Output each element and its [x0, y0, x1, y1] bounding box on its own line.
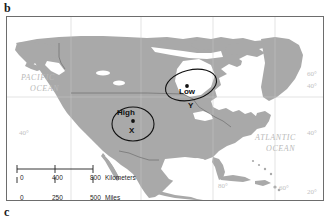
- low-pressure-label: Low: [179, 88, 195, 96]
- graticule-label-lat-40-right-upper: 40°: [307, 83, 317, 90]
- antilles-island-dot: [270, 173, 272, 175]
- high-pressure-label: High: [117, 109, 135, 117]
- graticule-label-lat-40-left: 40°: [19, 130, 29, 137]
- graticule-label-lat-40-right-lower: 40°: [307, 130, 317, 137]
- scale-mi-tick-0: 0: [20, 195, 24, 201]
- scale-mi-tick-250: 250: [52, 195, 63, 201]
- atlantic-ocean-label-line2: OCEAN: [255, 144, 296, 155]
- north-america-map-graphic: [7, 17, 323, 200]
- high-pressure-center-dot: [131, 119, 135, 123]
- antilles-island-dot: [258, 164, 260, 166]
- scale-km-tick-400: 400: [52, 175, 63, 182]
- scale-km-unit: Kilometers: [105, 175, 136, 182]
- panel-letter-b: b: [4, 2, 11, 14]
- high-pressure-point-letter: X: [129, 127, 134, 135]
- scale-km-tick-0: 0: [20, 175, 24, 182]
- map-scale-bar: 0 400 800 Kilometers 0 250 500 Miles: [21, 175, 141, 201]
- antilles-island-dot: [252, 160, 254, 162]
- atlantic-ocean-label: ATLANTIC OCEAN: [255, 133, 296, 155]
- pacific-ocean-label-line2: OCEAN: [21, 84, 59, 95]
- atlantic-ocean-label-line1: ATLANTIC: [255, 133, 296, 142]
- low-pressure-point-letter: Y: [188, 102, 193, 110]
- graticule-label-lon-60-bottom: 60°: [279, 185, 289, 192]
- graticule-label-lat-20-right: 20°: [307, 189, 317, 196]
- antilles-island-dot: [264, 168, 266, 170]
- scale-mi-tick-500: 500: [90, 195, 101, 201]
- pacific-ocean-label-line1: PACIFIC: [21, 73, 55, 82]
- graticule-label-lat-60-right-upper: 60°: [307, 71, 317, 78]
- scale-mi-unit: Miles: [105, 195, 120, 201]
- pacific-ocean-label: PACIFIC OCEAN: [21, 73, 59, 95]
- great-slave-lake-water: [113, 81, 125, 86]
- great-bear-lake-water: [96, 70, 110, 75]
- graticule-label-lon-80-bottom: 80°: [218, 183, 228, 190]
- scale-km-tick-800: 800: [90, 175, 101, 182]
- map-panel: PACIFIC OCEAN ATLANTIC OCEAN 60° 40° 40°…: [6, 16, 324, 201]
- panel-letter-c: c: [4, 206, 9, 218]
